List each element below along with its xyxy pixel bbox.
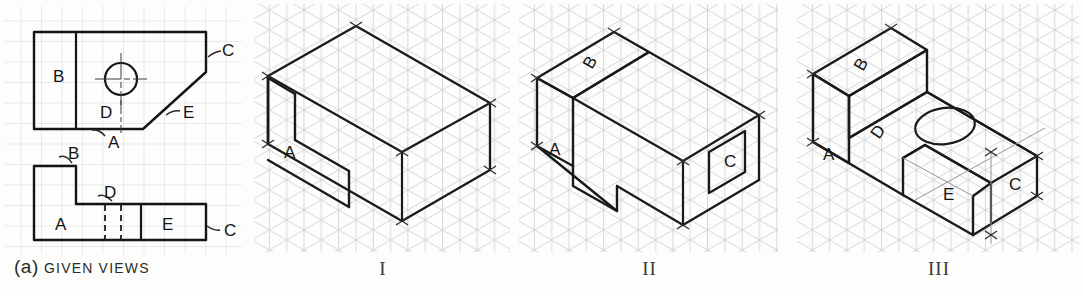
label-e-pictorial-3: E <box>943 185 954 204</box>
label-c-top: C <box>222 41 234 60</box>
panel-given-views: B D A C E B D A E C (a) GIVEN VIEWS <box>0 0 250 296</box>
label-e-front: E <box>162 215 173 234</box>
label-b-front: B <box>68 144 79 163</box>
label-d-top: D <box>100 103 112 122</box>
pictorial-2-svg: B A C <box>517 0 782 296</box>
caption-given-views: (a) GIVEN VIEWS <box>14 256 150 278</box>
label-a-pictorial-3: A <box>823 145 835 164</box>
pictorial-1-svg: A <box>252 0 514 296</box>
roman-numeral-2: II <box>642 258 657 279</box>
panel-pictorial-2: B A C II <box>517 0 782 296</box>
caption-prefix: (a) <box>14 256 39 277</box>
label-c-pictorial-3: C <box>1009 175 1021 194</box>
label-a-pictorial-2: A <box>549 140 561 159</box>
given-views-svg: B D A C E B D A E C <box>0 0 250 296</box>
label-c-front: C <box>224 221 236 240</box>
label-a-top: A <box>108 133 120 152</box>
roman-numeral-3: III <box>928 258 950 279</box>
label-c-pictorial-2: C <box>724 152 736 171</box>
label-b-top: B <box>53 67 64 86</box>
label-a-pictorial-1: A <box>284 143 296 162</box>
caption-words: GIVEN VIEWS <box>44 260 150 276</box>
caption-pictorial-3: III <box>795 258 1083 280</box>
label-e-top: E <box>183 103 194 122</box>
caption-pictorial-1: I <box>252 258 514 280</box>
panel-pictorial-1: A I <box>252 0 514 296</box>
caption-pictorial-2: II <box>517 258 782 280</box>
roman-numeral-1: I <box>379 258 386 279</box>
pictorial-3-svg: B A D E C <box>795 0 1083 296</box>
panel-pictorial-3: B A D E C III <box>795 0 1083 296</box>
label-d-front: D <box>104 183 116 202</box>
label-a-front: A <box>55 215 67 234</box>
drawing-sheet: B D A C E B D A E C (a) GIVEN VIEWS <box>0 0 1083 296</box>
